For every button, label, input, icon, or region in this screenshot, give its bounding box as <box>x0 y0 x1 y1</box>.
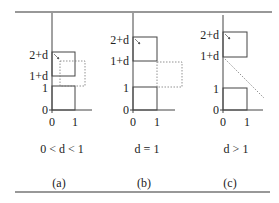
y-tick-0: 0 <box>213 103 219 117</box>
panel-sublabel: (b) <box>137 176 151 190</box>
y-tick-1: 1 <box>123 81 129 95</box>
lower-square <box>133 87 157 110</box>
x-tick-1: 1 <box>154 115 160 129</box>
lower-square <box>52 86 75 110</box>
x-tick-1: 1 <box>244 115 250 129</box>
y-tick-1: 1 <box>213 82 219 96</box>
lower-square <box>223 88 247 110</box>
y-tick-0: 0 <box>42 103 48 117</box>
panel-caption: d = 1 <box>135 142 160 156</box>
y-tick-1: 1 <box>42 81 48 95</box>
y-tick-0: 0 <box>123 103 129 117</box>
y-tick-2d: 2+d <box>200 28 219 42</box>
panel-b: 2+d 1+d 1 0 0 1 d = 1 (b) <box>110 13 182 190</box>
panel-c: 2+d 1+d 1 0 0 1 d > 1 (c) <box>200 15 264 190</box>
shifted-square <box>157 62 182 87</box>
panel-a: 2+d 1+d 1 0 0 1 0 < d < 1 (a) <box>29 13 92 190</box>
figure-canvas: 2+d 1+d 1 0 0 1 0 < d < 1 (a) 2+d 1+d 1 … <box>0 0 279 203</box>
x-tick-1: 1 <box>72 115 78 129</box>
panel-caption: 0 < d < 1 <box>40 142 84 156</box>
x-tick-0: 0 <box>49 115 55 129</box>
y-tick-1d: 1+d <box>110 54 129 68</box>
panel-caption: d > 1 <box>224 142 249 156</box>
y-tick-2d: 2+d <box>29 48 48 62</box>
y-tick-1d: 1+d <box>200 49 219 63</box>
panel-sublabel: (a) <box>52 176 65 190</box>
shift-arrow-icon <box>225 34 230 39</box>
diagonal-boundary <box>223 57 264 98</box>
panel-sublabel: (c) <box>223 176 236 190</box>
x-tick-0: 0 <box>130 115 136 129</box>
shift-arrow-icon <box>135 39 140 44</box>
y-tick-2d: 2+d <box>110 33 129 47</box>
shifted-square <box>60 61 85 86</box>
shift-arrow-icon <box>54 54 59 59</box>
x-tick-0: 0 <box>220 115 226 129</box>
